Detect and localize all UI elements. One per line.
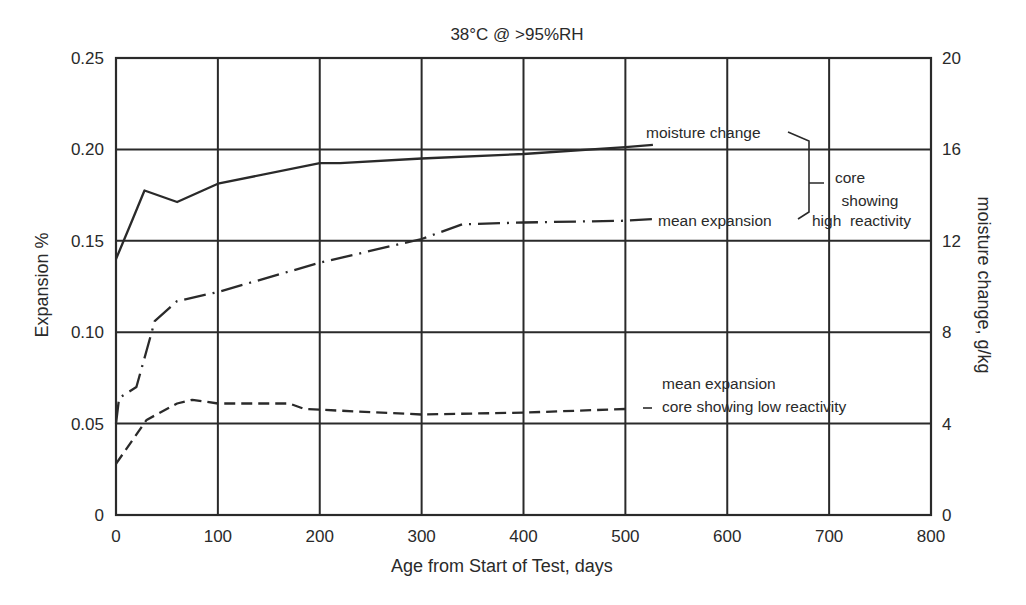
annotation-low-line2: core showing low reactivity	[662, 398, 847, 415]
y2-axis-ticks: 048121620	[942, 49, 961, 525]
x-axis-ticks: 0100200300400500600700800	[111, 527, 945, 546]
chart-title: 38°C @ >95%RH	[450, 25, 583, 44]
y-tick-label: 0.10	[71, 323, 104, 342]
y2-tick-label: 4	[942, 415, 951, 434]
y2-tick-label: 20	[942, 49, 961, 68]
x-tick-label: 500	[611, 527, 639, 546]
y2-axis-label: moisture change, g/kg	[974, 196, 994, 373]
annotation-high-reactivity: high reactivity	[812, 212, 911, 229]
y-tick-label: 0.25	[71, 49, 104, 68]
annotations: moisture change mean expansion core show…	[643, 124, 911, 415]
annotation-high-core: core	[835, 169, 865, 186]
x-axis-label: Age from Start of Test, days	[391, 556, 613, 576]
x-tick-label: 600	[713, 527, 741, 546]
x-tick-label: 0	[111, 527, 120, 546]
x-tick-label: 700	[815, 527, 843, 546]
x-tick-label: 400	[509, 527, 537, 546]
annotation-moisture: moisture change	[646, 124, 761, 141]
y-tick-label: 0.05	[71, 415, 104, 434]
y-axis-label: Expansion %	[32, 232, 52, 337]
y-tick-label: 0.15	[71, 232, 104, 251]
y2-tick-label: 12	[942, 232, 961, 251]
y2-tick-label: 8	[942, 323, 951, 342]
annotation-high-showing: showing	[842, 192, 899, 209]
x-tick-label: 100	[204, 527, 232, 546]
x-tick-label: 300	[407, 527, 435, 546]
y2-tick-label: 0	[942, 506, 951, 525]
y2-tick-label: 16	[942, 140, 961, 159]
series-line-2	[116, 400, 625, 464]
data-series	[116, 145, 656, 464]
y-tick-label: 0.20	[71, 140, 104, 159]
series-line-1	[116, 219, 656, 424]
y-tick-label: 0	[95, 506, 104, 525]
annotation-high-expansion: mean expansion	[658, 212, 772, 229]
chart: 38°C @ >95%RH 0100200300400500600700800 …	[0, 0, 1026, 605]
x-tick-label: 800	[917, 527, 945, 546]
annotation-low-line1: mean expansion	[662, 375, 776, 392]
annotation-bracket	[788, 132, 824, 219]
y-axis-ticks: 00.050.100.150.200.25	[71, 49, 104, 525]
series-line-0	[116, 145, 653, 259]
x-tick-label: 200	[306, 527, 334, 546]
